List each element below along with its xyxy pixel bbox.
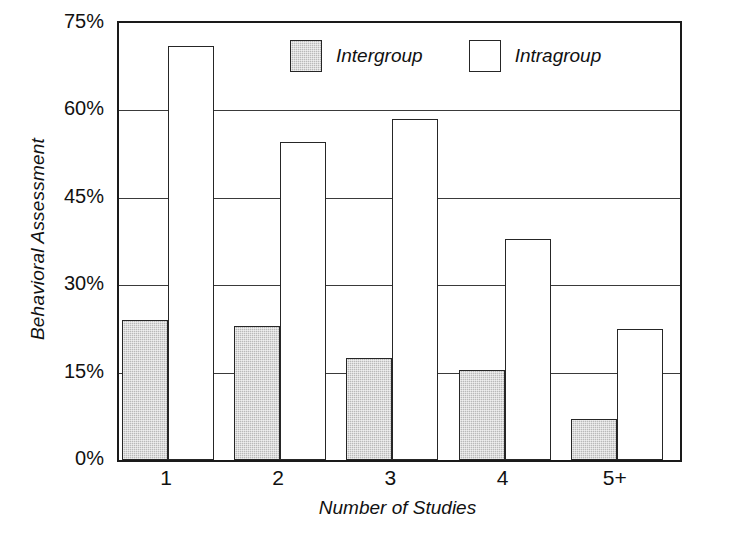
bar-intergroup xyxy=(571,419,617,460)
legend-item-intergroup: Intergroup xyxy=(290,40,423,72)
bar-intragroup xyxy=(168,46,214,460)
bar-chart-figure: Behavioral Assessment 75% 60% 45% 30% 15… xyxy=(0,0,735,535)
y-tick-label: 30% xyxy=(64,273,104,293)
legend-label: Intergroup xyxy=(336,45,423,67)
x-axis-tick-labels: 12345+ xyxy=(117,466,678,496)
x-axis-title: Number of Studies xyxy=(117,497,678,519)
bar-intergroup xyxy=(234,326,280,460)
x-tick-label: 3 xyxy=(385,466,397,490)
legend-label: Intragroup xyxy=(515,45,602,67)
bar-intragroup xyxy=(392,119,438,460)
y-tick-label: 45% xyxy=(64,186,104,206)
chart-legend: Intergroup Intragroup xyxy=(290,40,601,72)
plot-area xyxy=(117,21,682,462)
y-axis-tick-labels: 75% 60% 45% 30% 15% 0% xyxy=(0,0,112,535)
y-tick-label: 15% xyxy=(64,361,104,381)
bar-intragroup xyxy=(505,239,551,460)
bar-intragroup xyxy=(280,142,326,460)
x-tick-label: 5+ xyxy=(603,466,627,490)
gray-filled-swatch-icon xyxy=(290,40,322,72)
y-tick-label: 60% xyxy=(64,98,104,118)
bar-intergroup xyxy=(346,358,392,460)
x-tick-label: 4 xyxy=(497,466,509,490)
y-tick-label: 75% xyxy=(64,11,104,31)
x-tick-label: 2 xyxy=(272,466,284,490)
bar-intergroup xyxy=(459,370,505,460)
bar-intragroup xyxy=(617,329,663,460)
y-tick-label: 0% xyxy=(75,448,104,468)
white-open-swatch-icon xyxy=(469,40,501,72)
legend-item-intragroup: Intragroup xyxy=(469,40,602,72)
bar-intergroup xyxy=(122,320,168,460)
bars-layer xyxy=(119,23,680,460)
x-tick-label: 1 xyxy=(160,466,172,490)
